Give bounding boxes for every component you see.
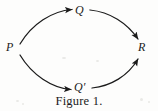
edge-q-to-r (90, 10, 138, 39)
edge-p-to-q (20, 10, 72, 45)
node-label-q-prime: Q′ (74, 81, 85, 93)
figure-page: P Q Q′ R Figure 1. (0, 0, 158, 111)
node-label-r: R (138, 41, 145, 53)
edge-qprime-to-r (92, 59, 138, 88)
figure-caption: Figure 1. (0, 95, 158, 108)
node-label-p: P (6, 41, 13, 53)
edge-p-to-qprime (20, 55, 71, 90)
node-label-q: Q (75, 4, 84, 16)
